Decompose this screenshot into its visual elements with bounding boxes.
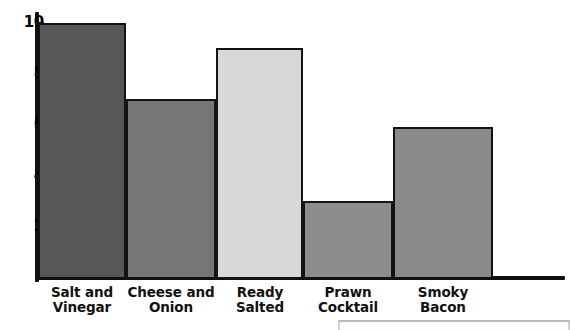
- x-label-line-2: Onion: [121, 300, 221, 315]
- x-label-prawn-cocktail: Prawn Cocktail: [298, 285, 398, 315]
- x-label-line-1: Cheese and: [127, 284, 214, 300]
- bottom-divider: [338, 320, 570, 330]
- x-label-smoky-bacon: Smoky Bacon: [393, 285, 493, 315]
- x-label-line-2: Bacon: [393, 300, 493, 315]
- bar-smoky-bacon: [393, 127, 493, 277]
- x-label-line-1: Salt and: [51, 284, 113, 300]
- x-label-line-2: Salted: [210, 300, 310, 315]
- x-label-cheese-and-onion: Cheese and Onion: [121, 285, 221, 315]
- x-label-line-1: Prawn: [324, 284, 371, 300]
- bar-salt-and-vinegar: [38, 23, 126, 277]
- x-label-line-1: Ready: [237, 284, 284, 300]
- x-label-line-1: Smoky: [418, 284, 468, 300]
- x-label-line-2: Vinegar: [32, 300, 132, 315]
- x-label-ready-salted: Ready Salted: [210, 285, 310, 315]
- bar-cheese-and-onion: [126, 99, 216, 277]
- x-label-salt-and-vinegar: Salt and Vinegar: [32, 285, 132, 315]
- bar-ready-salted: [216, 48, 303, 277]
- x-label-line-2: Cocktail: [298, 300, 398, 315]
- bar-chart: 10 8 6 4 2 Salt and Vinegar Cheese and O…: [0, 0, 572, 330]
- bar-prawn-cocktail: [303, 201, 393, 277]
